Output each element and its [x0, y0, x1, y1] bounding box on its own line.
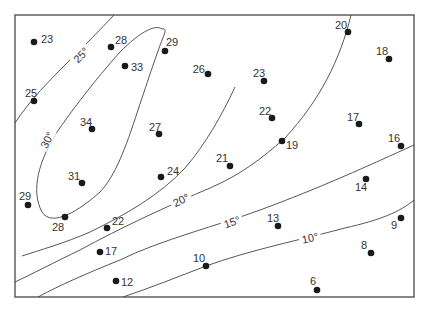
station-point: 17 [97, 245, 118, 257]
isotherm-label: 20° [168, 189, 193, 210]
station-value: 17 [105, 245, 117, 257]
station-value: 28 [52, 221, 64, 233]
station-point: 33 [122, 61, 144, 73]
station-value: 27 [149, 121, 161, 133]
station-point: 28 [52, 214, 68, 233]
isotherm-label: 15° [219, 212, 244, 232]
station-value: 14 [355, 181, 367, 193]
station-value: 24 [167, 165, 179, 177]
station-value: 16 [388, 132, 400, 144]
station-value: 12 [121, 276, 133, 288]
station-value: 10 [193, 252, 205, 264]
station-point: 29 [162, 36, 179, 54]
station-value: 34 [80, 116, 92, 128]
isotherm-label: 25° [68, 42, 93, 67]
isotherm-25-left [15, 15, 114, 123]
isotherm-label: 10° [298, 229, 322, 246]
station-point: 9 [391, 215, 404, 231]
station-value: 23 [41, 33, 53, 45]
station-point: 18 [376, 45, 392, 62]
station-value: 23 [253, 67, 265, 79]
station-value: 31 [68, 170, 80, 182]
station-value: 6 [310, 275, 316, 287]
station-dot [31, 39, 38, 46]
station-value: 8 [361, 239, 367, 251]
station-value: 33 [131, 61, 143, 73]
station-value: 9 [391, 219, 397, 231]
station-dot [279, 138, 286, 145]
station-value: 26 [193, 63, 205, 75]
station-point: 22 [259, 105, 275, 121]
station-value: 22 [112, 215, 124, 227]
station-value: 21 [216, 152, 228, 164]
station-value: 17 [347, 111, 359, 123]
station-point: 29 [19, 190, 31, 208]
station-point: 31 [68, 170, 85, 186]
station-value: 18 [376, 45, 388, 57]
station-point: 25 [25, 87, 37, 104]
station-value: 25 [25, 87, 37, 99]
station-point: 21 [216, 152, 233, 169]
station-value: 29 [19, 190, 31, 202]
station-point: 12 [113, 276, 134, 288]
station-point: 8 [361, 239, 374, 256]
station-point: 23 [253, 67, 267, 84]
station-value: 13 [267, 212, 279, 224]
station-point: 19 [279, 138, 299, 151]
svg-text:10°: 10° [301, 230, 320, 245]
station-point: 17 [347, 111, 362, 127]
isotherm-label: 30° [36, 127, 58, 153]
station-value: 19 [286, 139, 298, 151]
station-point: 10 [193, 252, 209, 269]
station-dot [162, 48, 169, 55]
station-value: 28 [115, 34, 127, 46]
station-dot [205, 71, 212, 78]
station-dot [398, 215, 405, 222]
station-dot [108, 44, 115, 51]
station-dot [158, 174, 165, 181]
station-dot [104, 225, 111, 232]
station-point: 27 [149, 121, 162, 137]
station-point: 23 [31, 33, 54, 45]
station-dot [113, 278, 120, 285]
station-dot [122, 63, 129, 70]
isotherm-map: 30°25°20°15°10° 232829332625342720182322… [0, 0, 429, 312]
station-dot [25, 202, 32, 209]
station-dot [97, 249, 104, 256]
station-point: 20 [335, 19, 351, 35]
station-point: 24 [158, 165, 180, 180]
station-value: 20 [335, 19, 347, 31]
station-dot [314, 287, 321, 294]
station-point: 6 [310, 275, 320, 293]
station-point: 16 [388, 132, 404, 149]
station-value: 29 [166, 36, 178, 48]
station-point: 14 [355, 176, 369, 193]
station-point: 26 [193, 63, 212, 77]
station-point: 13 [267, 212, 281, 229]
isotherm-30 [37, 28, 165, 219]
station-value: 22 [259, 105, 271, 117]
station-dot [368, 250, 375, 257]
station-point: 34 [80, 116, 95, 132]
station-dot [62, 214, 69, 221]
